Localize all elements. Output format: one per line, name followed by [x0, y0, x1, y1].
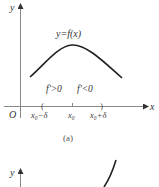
caption: (a) — [63, 133, 73, 143]
y-axis-label-b: y — [9, 167, 15, 178]
x-axis-label: x — [149, 101, 155, 112]
curve-label: y=f(x) — [55, 28, 82, 40]
curve-b — [104, 160, 116, 187]
decreasing-label: f'<0 — [77, 84, 93, 94]
y-axis-label: y — [9, 2, 15, 13]
tick-label-left: x₀−δ — [30, 110, 48, 120]
origin-label: O — [9, 109, 16, 120]
curve-f — [30, 45, 122, 78]
tick-label-center: x₀ — [67, 110, 75, 120]
figure-a: ( ) y x O y=f(x) f'>0 f'<0 x₀−δ x₀ x₀+δ … — [0, 0, 159, 187]
increasing-label: f'>0 — [46, 84, 62, 94]
tick-label-right: x₀+δ — [89, 110, 107, 120]
